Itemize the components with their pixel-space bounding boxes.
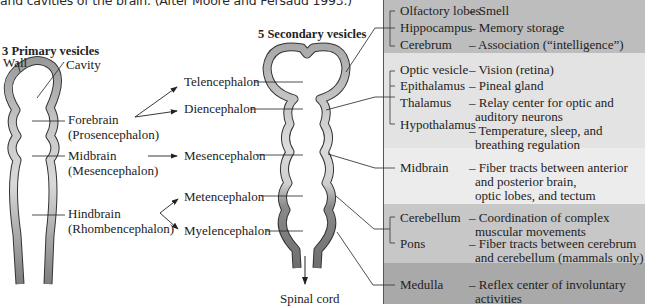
forebrain-label: Forebrain <box>68 112 119 127</box>
secondary-vesicle-tube <box>267 47 346 268</box>
hindbrain-label: Hindbrain <box>68 206 121 221</box>
function-table: Olfactory lobes – Smell Hippocampus – Me… <box>383 0 645 304</box>
cavity-label: Cavity <box>66 57 101 72</box>
wall-label: Wall <box>3 55 27 70</box>
mesencephalon-label: Mesencephalon <box>184 148 266 163</box>
mesencephalon-primary-label: (Mesencephalon) <box>68 163 158 178</box>
telencephalon-label: Telencephalon <box>184 74 260 89</box>
midbrain-label: Midbrain <box>68 148 116 163</box>
primary-vesicle-tube <box>8 61 57 285</box>
diencephalon-label: Diencephalon <box>184 101 256 116</box>
myelencephalon-label: Myelencephalon <box>184 223 271 238</box>
rhombencephalon-label: (Rhombencephalon) <box>68 221 174 236</box>
metencephalon-label: Metencephalon <box>184 189 264 204</box>
prosencephalon-label: (Prosencephalon) <box>68 127 159 142</box>
spinal-cord-label: Spinal cord <box>280 291 340 306</box>
